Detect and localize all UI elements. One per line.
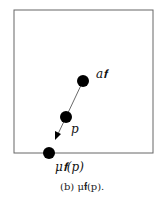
diagram: a𝐟 p μ𝐟(p) (b) μ𝐟(p). bbox=[0, 0, 159, 202]
figure-caption: (b) μ𝐟(p). bbox=[60, 181, 104, 192]
label-mu-f-p: μ𝐟(p) bbox=[55, 160, 84, 174]
arrowhead-icon bbox=[55, 131, 61, 140]
label-a-f: a𝐟 bbox=[96, 67, 109, 81]
label-p: p bbox=[71, 122, 79, 136]
point-mu-f-p bbox=[43, 147, 55, 159]
point-a-f bbox=[77, 75, 89, 87]
